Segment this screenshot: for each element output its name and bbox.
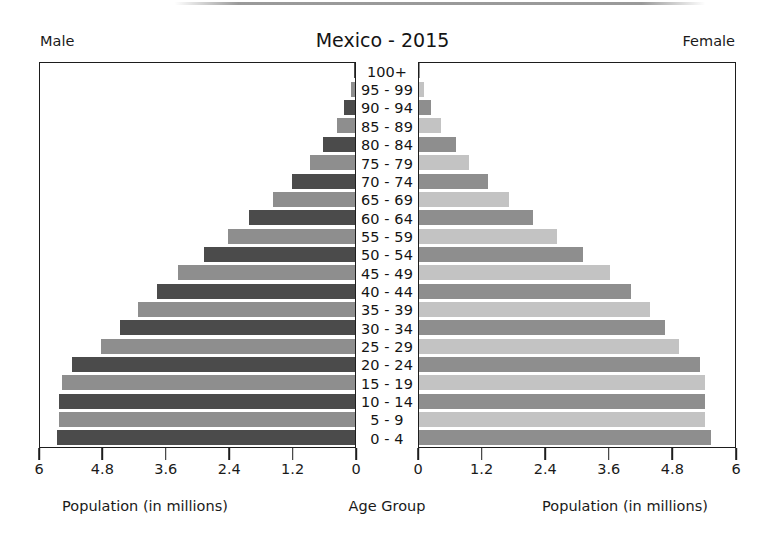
age-group-label: 10 - 14 bbox=[356, 393, 418, 411]
axis-tick-label: 6 bbox=[731, 461, 740, 477]
bar-row bbox=[419, 264, 735, 282]
population-pyramid-chart: Male Female Mexico - 2015 0 - 45 - 910 -… bbox=[0, 0, 765, 551]
male-bar bbox=[138, 302, 355, 317]
age-group-label: 100+ bbox=[356, 63, 418, 81]
female-bar bbox=[419, 320, 665, 335]
male-bar bbox=[120, 320, 355, 335]
female-bar bbox=[419, 174, 488, 189]
female-bar bbox=[419, 155, 469, 170]
axis-tick bbox=[735, 448, 737, 460]
right-axis-caption: Population (in millions) bbox=[542, 498, 708, 514]
bar-row bbox=[40, 300, 355, 318]
left-axis-caption: Population (in millions) bbox=[62, 498, 228, 514]
bar-row bbox=[40, 227, 355, 245]
female-bar bbox=[419, 229, 557, 244]
bar-row bbox=[40, 355, 355, 373]
page-title: Mexico - 2015 bbox=[0, 29, 765, 51]
age-group-label: 5 - 9 bbox=[356, 411, 418, 429]
axis-tick bbox=[228, 448, 230, 460]
male-bar bbox=[249, 210, 355, 225]
axis-tick-label: 1.2 bbox=[470, 461, 493, 477]
age-group-label: 85 - 89 bbox=[356, 118, 418, 136]
female-bar bbox=[419, 284, 631, 299]
female-plot-area bbox=[418, 62, 736, 448]
male-bar bbox=[62, 375, 355, 390]
age-group-label: 80 - 84 bbox=[356, 136, 418, 154]
bar-row bbox=[419, 374, 735, 392]
axis-tick bbox=[481, 448, 483, 460]
bar-row bbox=[419, 172, 735, 190]
bar-row bbox=[40, 154, 355, 172]
bar-row bbox=[419, 410, 735, 428]
bar-row bbox=[40, 209, 355, 227]
bar-row bbox=[419, 429, 735, 447]
male-bar bbox=[344, 100, 355, 115]
male-bar bbox=[59, 394, 355, 409]
bar-row bbox=[40, 429, 355, 447]
bar-row bbox=[419, 98, 735, 116]
female-bar bbox=[419, 339, 679, 354]
bar-row bbox=[419, 319, 735, 337]
bar-row bbox=[40, 245, 355, 263]
bar-row bbox=[40, 392, 355, 410]
male-bar bbox=[292, 174, 355, 189]
male-bar bbox=[157, 284, 355, 299]
age-group-label: 30 - 34 bbox=[356, 320, 418, 338]
bar-row bbox=[40, 62, 355, 80]
male-plot-area bbox=[39, 62, 356, 448]
male-bar bbox=[57, 430, 356, 445]
age-group-label: 35 - 39 bbox=[356, 301, 418, 319]
center-axis-caption: Age Group bbox=[349, 498, 426, 514]
axis-tick-label: 4.8 bbox=[661, 461, 684, 477]
age-group-label-column: 0 - 45 - 910 - 1415 - 1920 - 2425 - 2930… bbox=[356, 62, 418, 448]
bar-row bbox=[419, 282, 735, 300]
male-bar bbox=[228, 229, 355, 244]
axis-tick bbox=[672, 448, 674, 460]
axis-tick-label: 0 bbox=[351, 461, 360, 477]
male-bar-rows bbox=[40, 63, 355, 447]
bar-row bbox=[419, 135, 735, 153]
bar-row bbox=[419, 355, 735, 373]
age-group-label: 90 - 94 bbox=[356, 99, 418, 117]
bar-row bbox=[40, 135, 355, 153]
bar-row bbox=[40, 80, 355, 98]
axis-tick bbox=[165, 448, 167, 460]
female-bar bbox=[419, 192, 509, 207]
bar-row bbox=[419, 190, 735, 208]
age-group-label: 25 - 29 bbox=[356, 338, 418, 356]
bar-row bbox=[419, 62, 735, 80]
male-bar bbox=[59, 412, 355, 427]
female-bar bbox=[419, 247, 583, 262]
axis-tick-label: 1.2 bbox=[281, 461, 304, 477]
female-bar bbox=[419, 357, 700, 372]
female-bar bbox=[419, 63, 420, 78]
female-x-axis: 01.22.43.64.86 bbox=[418, 448, 736, 482]
axis-tick-label: 4.8 bbox=[91, 461, 114, 477]
age-group-label: 55 - 59 bbox=[356, 228, 418, 246]
scan-artifact-line bbox=[175, 2, 705, 5]
male-bar bbox=[273, 192, 355, 207]
age-group-label: 0 - 4 bbox=[356, 430, 418, 448]
bar-row bbox=[40, 410, 355, 428]
axis-tick bbox=[544, 448, 546, 460]
age-group-label: 60 - 64 bbox=[356, 210, 418, 228]
female-bar bbox=[419, 137, 456, 152]
female-bar bbox=[419, 412, 705, 427]
male-bar bbox=[310, 155, 355, 170]
age-group-label: 65 - 69 bbox=[356, 191, 418, 209]
bar-row bbox=[40, 190, 355, 208]
female-bar bbox=[419, 394, 705, 409]
bar-row bbox=[419, 117, 735, 135]
male-bar bbox=[354, 63, 355, 78]
axis-tick bbox=[608, 448, 610, 460]
female-bar bbox=[419, 82, 424, 97]
axis-tick bbox=[38, 448, 40, 460]
axis-tick bbox=[292, 448, 294, 460]
bar-row bbox=[419, 154, 735, 172]
male-bar bbox=[323, 137, 355, 152]
male-x-axis: 64.83.62.41.20 bbox=[39, 448, 356, 482]
age-group-label: 75 - 79 bbox=[356, 155, 418, 173]
axis-tick-label: 3.6 bbox=[597, 461, 620, 477]
male-bar bbox=[72, 357, 355, 372]
female-bar bbox=[419, 375, 705, 390]
